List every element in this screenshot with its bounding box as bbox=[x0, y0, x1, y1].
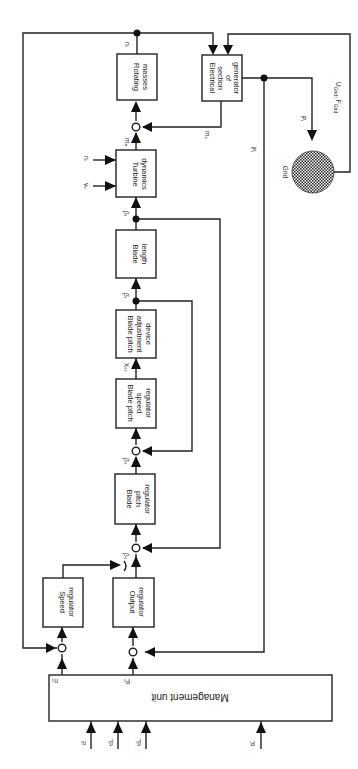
block-output-regulator: Output regulator bbox=[113, 578, 154, 627]
svg-text:regulator: regulator bbox=[143, 484, 152, 514]
speed-summing-junction bbox=[58, 644, 66, 652]
switch-icon bbox=[124, 561, 126, 571]
block-electrical-section-of-generator: Electrical section of generator bbox=[202, 55, 242, 101]
svg-text:device: device bbox=[144, 323, 153, 345]
svg-text:Pᵢ: Pᵢ bbox=[250, 740, 255, 747]
svg-text:Turbine: Turbine bbox=[131, 161, 140, 186]
block-diagram: Rotating masses Electrical section of ge… bbox=[0, 0, 358, 769]
pi-junction bbox=[261, 75, 268, 82]
svg-text:section: section bbox=[216, 66, 225, 90]
svg-text:Xₛₜ: Xₛₜ bbox=[123, 363, 130, 372]
svg-text:nᵣ: nᵣ bbox=[83, 156, 90, 162]
svg-text:nₛ: nₛ bbox=[51, 678, 58, 685]
svg-text:speed: speed bbox=[135, 393, 144, 413]
torque-summing-junction bbox=[132, 123, 140, 131]
svg-text:mₑ: mₑ bbox=[204, 131, 211, 139]
svg-text:βᵢ: βᵢ bbox=[122, 211, 130, 216]
block-blade-pitch-regulator: Blade pitch regulator bbox=[115, 474, 155, 524]
svg-text:regulator: regulator bbox=[137, 587, 146, 617]
me-line bbox=[143, 100, 221, 127]
power-summing-junction bbox=[129, 648, 137, 656]
svg-text:Pᵢ: Pᵢ bbox=[300, 116, 307, 121]
svg-text:nᵣ: nᵣ bbox=[124, 42, 131, 48]
svg-text:Blade: Blade bbox=[131, 244, 140, 263]
svg-text:vᵥ: vᵥ bbox=[83, 183, 90, 189]
beta-summing-junction bbox=[132, 544, 140, 552]
nr-junction bbox=[134, 30, 141, 37]
svg-text:Blade pitch: Blade pitch bbox=[126, 315, 135, 352]
svg-text:dynamics: dynamics bbox=[140, 158, 149, 190]
svg-text:Blade: Blade bbox=[125, 489, 134, 508]
nr-to-generator-line bbox=[137, 33, 213, 52]
arrowheads bbox=[46, 45, 317, 733]
block-management-unit: Management unit bbox=[49, 675, 332, 721]
svg-text:pitch: pitch bbox=[134, 491, 143, 507]
svg-text:adjustment: adjustment bbox=[135, 316, 144, 354]
svg-text:Rotating: Rotating bbox=[132, 63, 141, 91]
svg-text:regulator: regulator bbox=[144, 388, 153, 418]
signal-labels: nᵣ mₐ mₑ nᵣ vᵥ βᵢ β̇ᵢ Xₛₜ β̇ₛ βₛ Pᵢ Pᵢ U… bbox=[51, 42, 342, 747]
grid-voltage-frequency-label: UGrid, FGrid bbox=[333, 82, 342, 113]
svg-text:nᵣ: nᵣ bbox=[80, 740, 86, 747]
svg-text:Output: Output bbox=[128, 591, 137, 614]
beta-dot-summing-junction bbox=[132, 447, 140, 455]
svg-text:regulator: regulator bbox=[67, 587, 76, 617]
svg-text:β̇ᵢ: β̇ᵢ bbox=[122, 293, 130, 298]
svg-text:βₛ: βₛ bbox=[122, 553, 130, 560]
svg-text:β̇ₛ: β̇ₛ bbox=[122, 458, 130, 465]
beta-junction bbox=[133, 216, 140, 223]
grid-label: Grid bbox=[282, 166, 289, 179]
block-rotating-masses: Rotating masses bbox=[117, 54, 157, 100]
svg-text:masses: masses bbox=[141, 64, 150, 90]
power-feedback-line bbox=[145, 78, 264, 652]
speed-reg-to-switch-line bbox=[63, 565, 118, 578]
svg-text:of: of bbox=[224, 75, 233, 82]
block-blade-pitch-speed-regulator: Blade pitch speed regulator bbox=[116, 379, 156, 428]
grid-icon bbox=[292, 151, 334, 193]
svg-text:length: length bbox=[140, 244, 149, 264]
svg-text:βᵢ: βᵢ bbox=[108, 739, 113, 747]
svg-text:Electrical: Electrical bbox=[208, 63, 217, 94]
block-blade-pitch-adjustment-device: Blade pitch adjustment device bbox=[116, 310, 156, 358]
svg-text:generator: generator bbox=[232, 62, 241, 95]
block-turbine-dynamics: Turbine dynamics bbox=[116, 150, 156, 197]
beta-dot-junction bbox=[133, 298, 140, 305]
svg-text:Pᵢ: Pᵢ bbox=[250, 147, 257, 152]
svg-text:Pₛ: Pₛ bbox=[123, 678, 130, 685]
svg-text:Blade pitch: Blade pitch bbox=[126, 384, 135, 421]
block-blade-length: Blade length bbox=[116, 230, 156, 278]
svg-text:Management unit: Management unit bbox=[151, 692, 228, 703]
svg-text:mₐ: mₐ bbox=[124, 138, 131, 146]
wires bbox=[23, 33, 350, 749]
grid-feedback-line bbox=[228, 34, 350, 172]
generator-to-grid-line bbox=[242, 78, 312, 138]
svg-text:β̇ᵢ: β̇ᵢ bbox=[136, 739, 141, 747]
svg-text:Speed: Speed bbox=[58, 591, 67, 613]
block-speed-regulator: Speed regulator bbox=[43, 578, 83, 627]
